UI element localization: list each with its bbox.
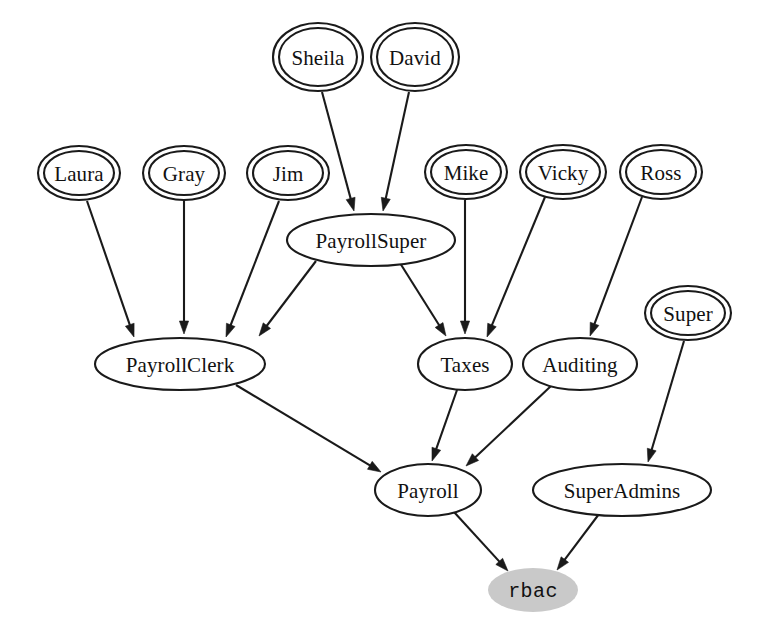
node-label-taxes: Taxes [440,353,489,377]
edge-auditing-to-payroll [466,386,551,466]
node-gray[interactable]: Gray [143,146,225,200]
edge-sheila-to-payrollsuper [322,92,355,211]
node-label-payrollsuper: PayrollSuper [316,229,427,253]
node-superadmins[interactable]: SuperAdmins [533,464,711,516]
node-sheila[interactable]: Sheila [273,23,363,91]
node-vicky[interactable]: Vicky [520,145,606,199]
node-label-ross: Ross [640,161,681,185]
node-label-mike: Mike [444,161,489,185]
edge-super-to-superadmins [647,341,684,462]
node-payrollsuper[interactable]: PayrollSuper [287,214,455,266]
edge-taxes-to-payroll [432,390,457,461]
node-label-gray: Gray [163,162,206,186]
node-jim[interactable]: Jim [247,146,329,200]
node-label-super: Super [663,302,713,326]
node-label-david: David [389,46,441,70]
node-label-auditing: Auditing [542,353,618,377]
node-rbac[interactable]: rbac [488,568,578,612]
edge-superadmins-to-rbac [557,514,599,570]
rbac-graph-canvas: SheilaDavidLauraGrayJimMikeVickyRossSupe… [0,0,767,640]
node-label-laura: Laura [54,162,104,186]
node-label-superadmins: SuperAdmins [564,479,681,503]
edge-jim-to-payrollclerk [226,201,279,337]
node-label-sheila: Sheila [291,46,345,70]
node-payrollclerk[interactable]: PayrollClerk [95,338,265,390]
node-super[interactable]: Super [645,286,731,340]
edge-ross-to-auditing [590,197,642,336]
node-payroll[interactable]: Payroll [375,464,481,516]
edge-laura-to-payrollclerk [87,201,134,337]
node-label-jim: Jim [273,162,304,186]
node-label-vicky: Vicky [538,161,589,185]
node-label-payroll: Payroll [397,479,458,503]
edge-payrollsuper-to-payrollclerk [259,261,316,336]
rbac-hierarchy-diagram: SheilaDavidLauraGrayJimMikeVickyRossSupe… [0,0,767,640]
node-auditing[interactable]: Auditing [523,338,637,390]
node-laura[interactable]: Laura [38,146,120,200]
node-david[interactable]: David [371,23,459,91]
edge-gray-to-payrollclerk [179,201,188,334]
edge-vicky-to-taxes [487,197,545,337]
edge-mike-to-taxes [460,200,469,334]
edge-payroll-to-rbac [454,512,508,571]
nodes-layer: SheilaDavidLauraGrayJimMikeVickyRossSupe… [38,23,731,612]
node-ross[interactable]: Ross [620,145,702,199]
node-label-payrollclerk: PayrollClerk [126,353,235,377]
node-taxes[interactable]: Taxes [418,338,512,390]
edge-david-to-payrollsuper [381,92,409,211]
edge-payrollclerk-to-payroll [236,385,381,472]
edge-payrollsuper-to-taxes [400,263,446,336]
node-mike[interactable]: Mike [425,145,507,199]
node-label-rbac: rbac [508,580,558,603]
